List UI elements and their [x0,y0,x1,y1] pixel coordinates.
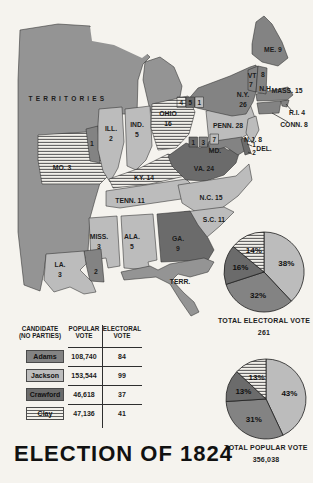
label-new-hampshire: N.H [259,85,271,92]
label-massachusetts: MASS. 15 [272,87,303,94]
state-connecticut [257,101,281,114]
pie-popular-total: 356,038 [253,456,280,464]
label-louisiana-split: 2 [94,268,98,275]
label-maryland: MD. [209,147,222,154]
table-rule-4 [68,404,142,405]
vote-num-ny-jackson: 1 [197,99,201,106]
table-rule-2 [68,366,142,367]
table-column-divider [102,325,103,428]
label-kentucky: KY. 14 [134,174,154,181]
candidate-swatch-jackson: Jackson [26,369,64,382]
label-alabama: ALA. [124,233,140,240]
vote-num-ny-clay: 4 [179,99,183,106]
label-indiana: IND. [130,121,144,128]
popular-vote-clay: 47,136 [66,410,102,417]
pie-popular-label-clay: 13% [248,373,264,382]
pie-popular-caption: TOTAL POPULAR VOTE [224,444,307,451]
header-popular-line2: VOTE [66,332,102,339]
label-new-hampshire-votes: 8 [261,71,265,78]
label-alabama-votes: 5 [130,243,134,250]
label-illinois: ILL. [105,125,117,132]
label-louisiana-votes: 3 [58,271,62,278]
candidate-swatch-adams: Adams [26,350,64,363]
header-candidate: CANDIDATE (NO PARTIES) [14,323,66,340]
pie-chart-popular-vote: 43%31%13%13% [226,359,306,439]
results-table: CANDIDATE (NO PARTIES) POPULAR VOTE ELEC… [14,323,142,433]
pie-electoral-label-adams: 32% [250,291,266,300]
pie-electoral-label-crawford: 16% [232,263,248,272]
pie-electoral-label-jackson: 38% [278,259,294,268]
vote-num-ny-crawford: 5 [188,99,192,106]
label-georgia: GA. [172,235,184,242]
label-georgia-votes: 9 [176,245,180,252]
table-rule-1 [68,347,142,348]
pie-electoral-caption: TOTAL ELECTORAL VOTE [218,317,310,324]
state-indiana [125,106,152,170]
label-connecticut: CONN. 8 [280,121,308,128]
header-popular-line1: POPULAR [66,325,102,332]
label-illinois-split: 1 [90,140,94,147]
label-mississippi-votes: 3 [97,243,101,250]
label-new-york-votes: 26 [239,101,247,108]
pie-popular-label-jackson: 43% [281,389,297,398]
page-title: ELECTION OF 1824 [14,441,233,467]
header-candidate-line2: (NO PARTIES) [14,332,66,339]
state-maine [252,16,288,66]
label-virginia: VA. 24 [194,165,214,172]
label-tennessee: TENN. 11 [115,197,145,204]
label-illinois-votes: 2 [109,135,113,142]
label-vermont: VT [248,72,258,79]
header-popular-vote: POPULAR VOTE [66,323,102,340]
label-rhode-island: R.I. 4 [289,109,305,116]
label-missouri: MO. 3 [53,164,72,171]
pie-popular-label-adams: 31% [246,415,262,424]
label-maine: ME. 9 [264,46,282,53]
label-north-carolina: N.C. 15 [199,194,222,201]
vote-num-md-crawford: 1 [191,139,195,146]
candidate-swatch-clay: Clay [26,407,64,420]
pie-popular-label-crawford: 13% [235,387,251,396]
label-mississippi: MISS. [90,233,109,240]
table-rule-3 [68,385,142,386]
electoral-vote-jackson: 99 [102,372,142,379]
pie-electoral-label-clay: 14% [246,246,262,255]
table-row-adams: Adams 108,740 84 [14,348,142,365]
popular-vote-crawford: 46,618 [66,391,102,398]
electoral-vote-crawford: 37 [102,391,142,398]
table-row-crawford: Crawford 46,618 37 [14,386,142,403]
results-table-header: CANDIDATE (NO PARTIES) POPULAR VOTE ELEC… [14,323,142,346]
popular-vote-jackson: 153,544 [66,372,102,379]
popular-vote-adams: 108,740 [66,353,102,360]
pie-electoral-total: 261 [258,329,270,336]
vote-num-md-jackson: 7 [212,136,216,143]
label-pennsylvania: PENN. 28 [213,122,243,129]
label-territories: TERRITORIES [29,95,108,102]
label-florida-territory: TERR. [170,278,191,285]
label-louisiana: LA. [55,261,66,268]
label-south-carolina: S.C. 11 [203,216,226,223]
header-candidate-line1: CANDIDATE [14,325,66,332]
label-ohio-votes: 16 [164,120,172,127]
label-ohio: OHIO [159,110,176,117]
state-alabama [121,214,157,270]
header-electoral-vote: ELECTORAL VOTE [102,323,142,340]
label-vermont-votes: 7 [249,81,253,88]
label-indiana-votes: 5 [135,131,139,138]
header-electoral-line2: VOTE [102,332,142,339]
electoral-vote-clay: 41 [102,410,142,417]
label-delaware: DEL. [256,145,272,152]
header-electoral-line1: ELECTORAL [102,325,142,332]
vote-split-new-york: 4 5 1 [177,97,204,108]
label-new-jersey: N.J. 8 [244,136,262,143]
candidate-swatch-crawford: Crawford [26,388,64,401]
electoral-vote-adams: 84 [102,353,142,360]
infographic-election-1824: 4 5 1 1 3 7 1 2 TERRITORIES MO. 3 ILL. 2… [0,0,313,483]
table-row-clay: Clay 47,136 41 [14,405,142,422]
pie-chart-electoral-vote: 38%32%16%14% [224,232,304,312]
vote-num-md-adams: 3 [201,139,205,146]
label-new-york: N.Y. [237,91,250,98]
table-row-jackson: Jackson 153,544 99 [14,367,142,384]
